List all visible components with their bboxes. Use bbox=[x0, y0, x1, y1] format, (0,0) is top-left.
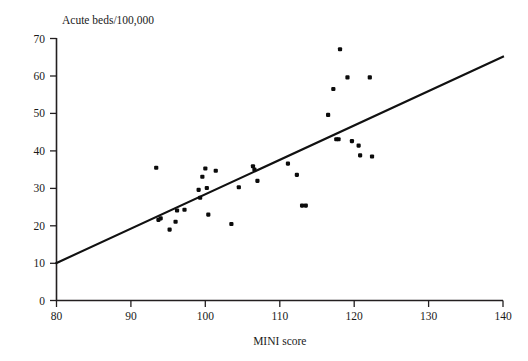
x-tick-label-80: 80 bbox=[51, 310, 63, 322]
y-tick-label-60: 60 bbox=[34, 70, 46, 82]
y-tick-label-50: 50 bbox=[34, 107, 46, 119]
scatter-point bbox=[336, 137, 340, 141]
scatter-point bbox=[252, 168, 256, 172]
scatter-point bbox=[368, 75, 372, 79]
scatter-point bbox=[286, 162, 290, 166]
scatter-point bbox=[345, 75, 349, 79]
scatter-point bbox=[331, 87, 335, 91]
x-tick-label-140: 140 bbox=[494, 310, 512, 322]
scatter-point bbox=[350, 139, 354, 143]
x-tick-label-130: 130 bbox=[420, 310, 438, 322]
scatter-point bbox=[300, 204, 304, 208]
scatter-point bbox=[370, 154, 374, 158]
axis-lines bbox=[57, 38, 504, 301]
scatter-point bbox=[237, 185, 241, 189]
scatter-point bbox=[203, 166, 207, 170]
scatter-point bbox=[175, 208, 179, 212]
x-axis-ticks bbox=[57, 301, 504, 308]
scatter-point bbox=[295, 173, 299, 177]
scatter-point bbox=[159, 216, 163, 220]
scatter-point bbox=[200, 175, 204, 179]
scatter-point bbox=[358, 153, 362, 157]
scatter-point bbox=[206, 213, 210, 217]
plot-title: Acute beds/100,000 bbox=[62, 14, 154, 27]
scatter-point bbox=[168, 228, 172, 232]
scatter-point bbox=[357, 144, 361, 148]
scatter-point bbox=[197, 188, 201, 192]
scatter-point bbox=[198, 196, 202, 200]
x-tick-label-90: 90 bbox=[125, 310, 137, 322]
scatter-point bbox=[173, 220, 177, 224]
x-tick-label-110: 110 bbox=[271, 310, 288, 322]
x-tick-label-120: 120 bbox=[346, 310, 364, 322]
y-tick-label-30: 30 bbox=[34, 182, 46, 194]
y-tick-label-20: 20 bbox=[34, 220, 46, 232]
scatter-points-group bbox=[154, 47, 374, 232]
scatter-point bbox=[154, 166, 158, 170]
y-tick-label-40: 40 bbox=[34, 145, 46, 157]
x-axis-label: MINI score bbox=[253, 335, 306, 347]
scatter-point bbox=[229, 222, 233, 226]
y-tick-label-0: 0 bbox=[39, 295, 45, 307]
x-tick-label-100: 100 bbox=[197, 310, 215, 322]
regression-line bbox=[57, 57, 504, 263]
scatter-point bbox=[304, 204, 308, 208]
scatter-point bbox=[182, 208, 186, 212]
scatter-point bbox=[326, 113, 330, 117]
scatter-point bbox=[338, 47, 342, 51]
scatter-point bbox=[205, 186, 209, 190]
scatter-plot-figure: 70 60 50 40 30 20 10 0 80 90 100 110 120… bbox=[0, 0, 528, 361]
scatter-point bbox=[255, 179, 259, 183]
y-axis-ticks bbox=[50, 39, 57, 301]
y-tick-label-10: 10 bbox=[34, 257, 46, 269]
y-tick-label-70: 70 bbox=[34, 33, 46, 45]
scatter-point bbox=[214, 169, 218, 173]
